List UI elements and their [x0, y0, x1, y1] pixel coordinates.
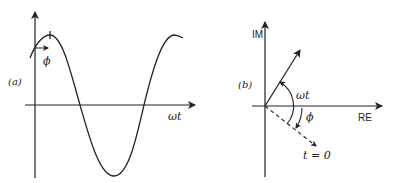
x-axis-label-a: ωt	[168, 110, 182, 123]
phi-arc	[296, 108, 302, 128]
panel-label-a: (a)	[8, 76, 22, 87]
panel-label-b: (b)	[238, 79, 252, 90]
phi-label-b: ϕ	[306, 111, 314, 124]
panel-b: IM RE (b) ωt ϕ t = 0	[238, 22, 382, 177]
phasor	[265, 50, 300, 106]
im-axis-label: IM	[252, 29, 263, 40]
omega-t-arc	[280, 82, 294, 124]
panel-a: ϕ (a) ωt	[8, 12, 195, 178]
omega-t-label: ωt	[296, 89, 310, 102]
phase-label-a: ϕ	[43, 55, 51, 68]
t0-label: t = 0	[303, 149, 331, 162]
diagram-canvas: ϕ (a) ωt IM RE (b) ωt ϕ t = 0	[0, 0, 394, 183]
re-axis-label: RE	[358, 112, 372, 123]
